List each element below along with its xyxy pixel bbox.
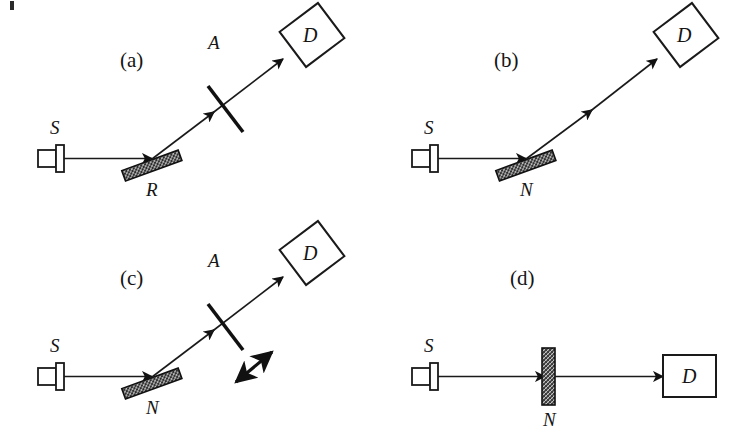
source-aperture-icon [430,363,438,390]
panel-d-sample-label: N [542,409,557,430]
source-body-icon [412,150,430,167]
optics-diagram-svg: (a) S R A D [0,0,747,436]
panel-d-source-label: S [424,335,434,356]
source-aperture-icon [56,145,64,172]
scan-artifact-mark [10,1,14,10]
panel-a-analyzer-label: A [206,32,220,53]
panel-c-label: (c) [120,266,143,290]
panel-d-sample-hatched-icon [542,348,555,405]
source-body-icon [412,368,430,385]
panel-d-detector-label: D [681,365,697,387]
panel-b-mirror-label: N [519,179,534,200]
panel-b-source-label: S [424,117,434,138]
figure-root: (a) S R A D [0,0,747,436]
source-aperture-icon [56,363,64,390]
source-aperture-icon [430,145,438,172]
canvas-background [0,0,747,436]
panel-b-detector-label: D [676,24,692,46]
panel-a-source-label: S [50,117,60,138]
panel-c-analyzer-label: A [206,250,220,271]
panel-c-mirror-label: N [145,397,160,418]
source-body-icon [38,368,56,385]
panel-d-label: (d) [510,266,535,290]
panel-c-detector-label: D [302,242,318,264]
panel-a-label: (a) [120,48,143,72]
source-body-icon [38,150,56,167]
panel-d-detector: D [663,355,716,397]
panel-a-detector-label: D [302,24,318,46]
panel-a-mirror-label: R [145,179,158,200]
panel-b-label: (b) [494,48,519,72]
panel-c-source-label: S [50,335,60,356]
